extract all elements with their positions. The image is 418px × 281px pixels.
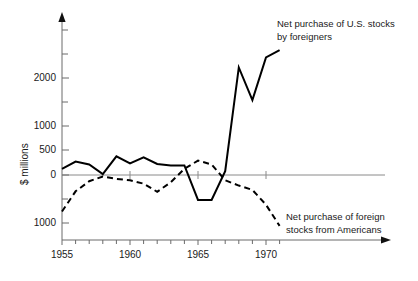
x-tick-label-1970: 1970 (244, 250, 288, 260)
us-stocks-annotation-line1: Net purchase of U.S. stocks (277, 18, 395, 31)
foreign-stocks-annotation: Net purchase of foreign stocks from Amer… (286, 211, 385, 237)
y-tick-label-0: 0 (10, 170, 56, 180)
chart-axes (58, 12, 391, 244)
foreign-stocks-annotation-line1: Net purchase of foreign (286, 211, 385, 224)
x-axis-arrow-icon (381, 236, 391, 243)
series-line-foreign-stocks (62, 161, 280, 226)
y-tick-label-negative-1000: 1000 (10, 218, 56, 228)
x-tick-label-1955: 1955 (40, 250, 84, 260)
x-tick-label-1960: 1960 (108, 250, 152, 260)
y-axis-arrow-icon (58, 12, 65, 22)
x-tick-label-1965: 1965 (176, 250, 220, 260)
y-axis-title: $ millions (20, 143, 30, 185)
us-stocks-annotation: Net purchase of U.S. stocks by foreigner… (277, 18, 395, 44)
x-axis-ticks (62, 240, 280, 245)
series-line-us-stocks (62, 50, 280, 200)
y-tick-label-500: 500 (10, 145, 56, 155)
y-axis-ticks (62, 30, 69, 223)
foreign-stocks-annotation-line2: stocks from Americans (286, 224, 385, 237)
chart-container: 2000 1000 500 0 1000 1955 1960 1965 1970… (0, 0, 418, 281)
y-tick-label-1000: 1000 (10, 121, 56, 131)
y-tick-label-2000: 2000 (10, 73, 56, 83)
us-stocks-annotation-line2: by foreigners (277, 31, 395, 44)
